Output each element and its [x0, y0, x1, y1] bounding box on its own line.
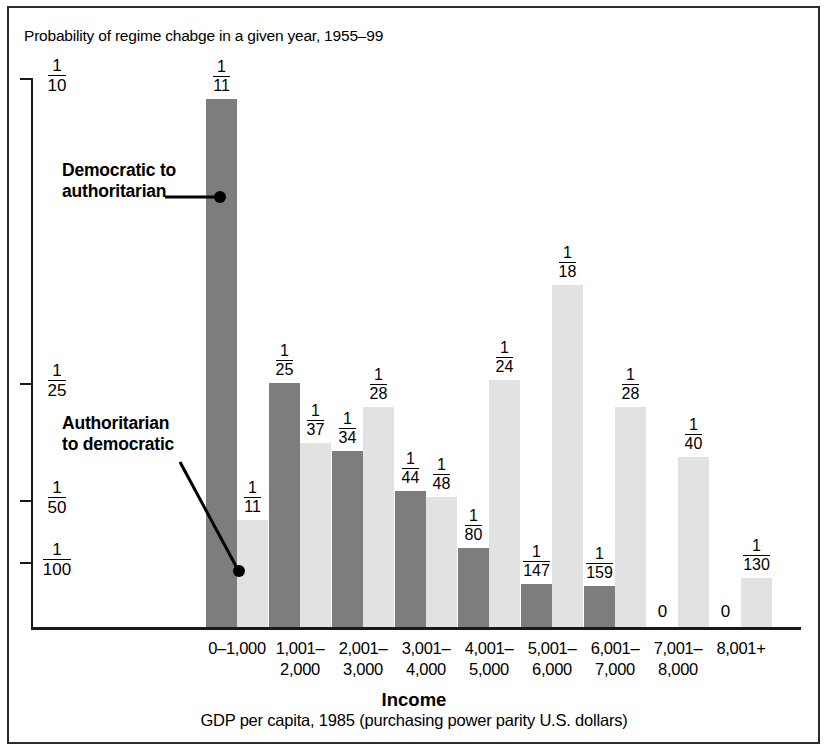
- x-axis-subtitle: GDP per capita, 1985 (purchasing power p…: [0, 711, 828, 730]
- fraction-value: 134: [339, 411, 357, 447]
- chart-figure: Probability of regime chabge in a given …: [0, 0, 828, 750]
- fraction-numerator: 1: [213, 59, 230, 77]
- annotation-dem-auth-line1: Democratic to: [62, 160, 176, 181]
- fraction-denominator: 100: [43, 560, 71, 579]
- fraction-numerator: 1: [244, 480, 261, 498]
- fraction-numerator: 1: [48, 362, 67, 381]
- fraction-numerator: 1: [465, 508, 483, 526]
- fraction-denominator: 50: [48, 498, 67, 517]
- bar-light-2: [363, 407, 394, 627]
- fraction-value: 110: [48, 57, 67, 95]
- annotation-auth-dem-line2: to democratic: [62, 434, 174, 455]
- x-axis-label-line2: 8,000: [632, 659, 724, 680]
- fraction-numerator: 1: [48, 479, 67, 498]
- fraction-numerator: 1: [743, 538, 770, 556]
- frame-border-left: [7, 6, 9, 744]
- frame-border-top: [7, 6, 820, 8]
- bar-dark-5: [521, 584, 552, 627]
- bar-value-label-light-5: 118: [541, 245, 595, 281]
- bar-value-label-dark-1: 125: [258, 343, 312, 379]
- fraction-numerator: 1: [622, 367, 640, 385]
- x-axis-label-line1: 8,001+: [695, 638, 787, 659]
- fraction-value: 150: [48, 479, 67, 517]
- fraction-numerator: 1: [685, 417, 703, 435]
- fraction-denominator: 25: [276, 361, 294, 379]
- bar-dark-0: [206, 99, 237, 627]
- annotation-dem-auth-line2: authoritarian: [62, 181, 176, 202]
- bar-light-1: [300, 443, 331, 627]
- fraction-numerator: 1: [370, 367, 388, 385]
- fraction-value: 111: [213, 59, 230, 95]
- annotation-democratic-to-authoritarian: Democratic to authoritarian: [62, 160, 176, 201]
- fraction-numerator: 1: [559, 245, 577, 263]
- frame-border-right: [818, 6, 820, 744]
- fraction-denominator: 24: [496, 358, 514, 376]
- bar-light-8: [741, 578, 772, 627]
- y-axis-tick-mark: [20, 500, 33, 502]
- y-axis-tick-label: 1100: [38, 541, 76, 579]
- fraction-value: 1147: [523, 544, 550, 580]
- fraction-denominator: 34: [339, 429, 357, 447]
- y-axis-tick-label: 150: [38, 479, 76, 517]
- bar-light-0: [237, 520, 268, 627]
- bar-value-label-light-4: 124: [478, 340, 532, 376]
- fraction-numerator: 1: [276, 343, 294, 361]
- fraction-denominator: 28: [370, 385, 388, 403]
- fraction-denominator: 28: [622, 385, 640, 403]
- bar-light-4: [489, 380, 520, 627]
- fraction-denominator: 10: [48, 76, 67, 95]
- fraction-denominator: 11: [213, 77, 230, 95]
- bar-dark-2: [332, 451, 363, 627]
- fraction-value: 111: [244, 480, 261, 516]
- x-axis-title: Income: [0, 689, 828, 711]
- fraction-denominator: 130: [743, 556, 770, 574]
- fraction-denominator: 80: [465, 526, 483, 544]
- bar-light-7: [678, 457, 709, 627]
- fraction-denominator: 11: [244, 498, 261, 516]
- bar-dark-6: [584, 586, 615, 627]
- y-axis-tick-mark: [20, 562, 33, 564]
- y-axis-tick-label: 110: [38, 57, 76, 95]
- fraction-value: 180: [465, 508, 483, 544]
- y-axis-tick-label: 125: [38, 362, 76, 400]
- fraction-denominator: 18: [559, 263, 577, 281]
- fraction-value: 125: [48, 362, 67, 400]
- bar-value-label-light-8: 1130: [730, 538, 784, 574]
- fraction-value: 1159: [586, 546, 613, 582]
- bar-dark-3: [395, 491, 426, 627]
- fraction-denominator: 40: [685, 435, 703, 453]
- fraction-numerator: 1: [48, 57, 67, 76]
- chart-title: Probability of regime chabge in a given …: [24, 27, 383, 45]
- fraction-value: 1100: [43, 541, 71, 579]
- annotation-auth-dem-line1: Authoritarian: [62, 413, 174, 434]
- frame-border-bottom: [7, 742, 820, 744]
- x-axis-label-8: 8,001+: [695, 638, 787, 659]
- y-axis-tick-mark: [20, 383, 33, 385]
- bar-dark-4: [458, 548, 489, 627]
- bar-value-label-light-3: 148: [415, 457, 469, 493]
- fraction-value: 148: [433, 457, 451, 493]
- y-axis-tick-mark: [20, 78, 33, 80]
- fraction-numerator: 1: [43, 541, 71, 560]
- fraction-denominator: 48: [433, 475, 451, 493]
- fraction-numerator: 1: [496, 340, 514, 358]
- fraction-numerator: 1: [433, 457, 451, 475]
- y-axis-line: [31, 78, 33, 629]
- fraction-numerator: 1: [523, 544, 550, 562]
- bar-value-label-light-7: 140: [667, 417, 721, 453]
- annotation-authoritarian-to-democratic: Authoritarian to democratic: [62, 413, 174, 454]
- fraction-denominator: 25: [48, 381, 67, 400]
- bar-value-label-light-6: 128: [604, 367, 658, 403]
- fraction-value: 1130: [743, 538, 770, 574]
- fraction-denominator: 147: [523, 562, 550, 580]
- fraction-value: 124: [496, 340, 514, 376]
- fraction-value: 140: [685, 417, 703, 453]
- fraction-value: 128: [370, 367, 388, 403]
- fraction-value: 118: [559, 245, 577, 281]
- fraction-numerator: 1: [339, 411, 357, 429]
- fraction-numerator: 1: [586, 546, 613, 564]
- bar-value-label-dark-0: 111: [195, 59, 249, 95]
- x-axis-line: [31, 627, 801, 630]
- fraction-value: 125: [276, 343, 294, 379]
- bar-light-6: [615, 407, 646, 627]
